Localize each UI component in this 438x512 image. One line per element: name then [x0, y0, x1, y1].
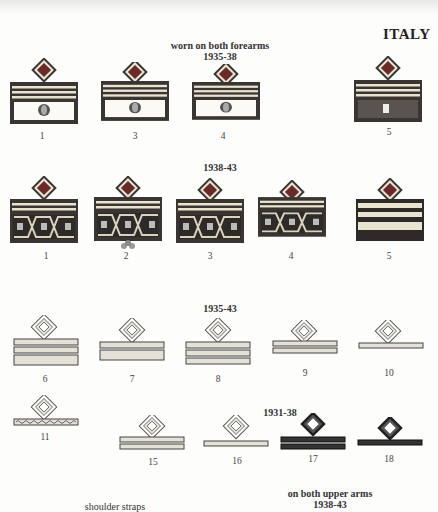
badge-number: 17: [298, 454, 328, 464]
badge-number: 10: [374, 368, 404, 378]
badge-11: [12, 395, 82, 433]
badge-number: 6: [30, 374, 60, 384]
country-title: ITALY: [383, 26, 431, 43]
badge-number: 1: [27, 131, 57, 141]
badge-7: [98, 318, 168, 368]
badge-17: [279, 413, 349, 453]
section-heading-forearms: worn on both forearms 1935-38: [140, 40, 300, 62]
badge-number: 5: [374, 251, 404, 261]
badge-number: 11: [30, 432, 60, 442]
badge-number: 5: [374, 127, 404, 137]
scan-edge: [0, 0, 438, 14]
section-heading-shoulder-straps: shoulder straps: [70, 501, 160, 512]
badge-1935-3: [101, 62, 181, 128]
badge-1935-4: [192, 64, 272, 128]
badge-1938-1: [10, 176, 90, 248]
badge-number: 4: [208, 131, 238, 141]
badge-1935-1: [10, 58, 90, 128]
section-heading-1935-43: 1935-43: [180, 303, 260, 314]
heading-line: 1938-43: [270, 499, 390, 510]
badge-number: 3: [195, 251, 225, 261]
badge-16: [202, 415, 272, 449]
badge-number: 18: [374, 454, 404, 464]
badge-number: 4: [276, 251, 306, 261]
badge-number: 3: [120, 131, 150, 141]
badge-1938-5: [356, 178, 436, 248]
section-heading-1938-43: 1938-43: [180, 162, 260, 173]
heading-line: 1935-38: [140, 51, 300, 62]
badge-18: [356, 417, 426, 449]
heading-line: worn on both forearms: [140, 40, 300, 51]
badge-1938-4: [258, 180, 338, 248]
badge-number: 7: [117, 374, 147, 384]
badge-number: 1: [31, 251, 61, 261]
badge-6: [12, 315, 82, 375]
badge-number: 2: [111, 251, 141, 261]
badge-number: 15: [138, 457, 168, 467]
badge-number: 16: [222, 456, 252, 466]
badge-1938-3: [176, 178, 256, 248]
badge-15: [118, 415, 188, 455]
badge-1935-5: [354, 56, 434, 124]
badge-number: 9: [290, 368, 320, 378]
badge-8: [184, 318, 254, 372]
badge-10: [357, 320, 427, 356]
badge-1938-2: [94, 176, 174, 256]
badge-number: 8: [203, 374, 233, 384]
heading-line: on both upper arms: [270, 488, 390, 499]
badge-9: [271, 320, 341, 362]
section-heading-upper-arms: on both upper arms 1938-43: [270, 488, 390, 510]
